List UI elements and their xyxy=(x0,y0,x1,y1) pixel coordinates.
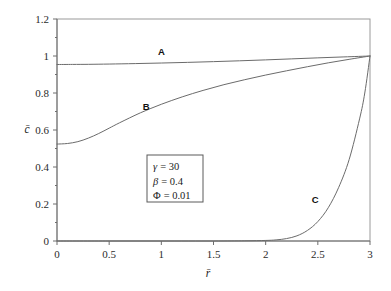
x-axis-tick-labels: 00.511.522.53 xyxy=(54,248,373,260)
y-tick-label: 0.8 xyxy=(35,87,49,99)
curve-label-A: A xyxy=(158,46,165,57)
figure-container: 00.20.40.60.811.2 00.511.522.53 ABC γ= 3… xyxy=(0,0,391,291)
x-tick-label: 0.5 xyxy=(102,248,116,260)
y-axis: 00.20.40.60.811.2 xyxy=(35,13,57,247)
y-tick-label: 0 xyxy=(44,235,50,247)
y-axis-ticks xyxy=(53,19,57,241)
y-axis-tick-labels: 00.20.40.60.811.2 xyxy=(35,13,49,247)
x-tick-label: 1 xyxy=(159,248,165,260)
x-tick-label: 2.5 xyxy=(311,248,325,260)
parameter-row-1: β= 0.4 xyxy=(152,176,184,187)
plot-background xyxy=(57,19,370,241)
curve-label-B: B xyxy=(143,101,150,112)
x-tick-label: 1.5 xyxy=(207,248,221,260)
x-axis: 00.511.522.53 xyxy=(54,241,373,260)
y-tick-label: 0.6 xyxy=(35,124,49,136)
y-tick-label: 0.2 xyxy=(35,198,49,210)
y-axis-title: c̄ xyxy=(24,123,29,135)
x-tick-label: 0 xyxy=(54,248,60,260)
y-tick-label: 0.4 xyxy=(35,161,49,173)
parameter-row-0: γ= 30 xyxy=(153,161,179,172)
x-tick-label: 2 xyxy=(263,248,269,260)
parameter-box: γ= 30 β= 0.4 Φ= 0.01 xyxy=(147,155,203,202)
x-axis-title: r̄ xyxy=(206,267,211,279)
y-tick-label: 1 xyxy=(44,50,50,62)
y-tick-label: 1.2 xyxy=(35,13,49,25)
x-tick-label: 3 xyxy=(367,248,373,260)
line-chart: 00.20.40.60.811.2 00.511.522.53 ABC γ= 3… xyxy=(0,0,391,291)
x-axis-ticks xyxy=(57,241,370,245)
parameter-row-2: Φ= 0.01 xyxy=(153,190,191,201)
curve-label-C: C xyxy=(312,194,319,205)
